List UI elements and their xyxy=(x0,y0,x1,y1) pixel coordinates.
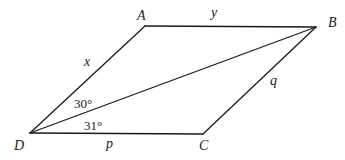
vertex-label-B: B xyxy=(328,15,337,30)
vertex-label-A: A xyxy=(136,8,146,23)
vertex-label-D: D xyxy=(13,138,24,153)
side-BC xyxy=(203,27,316,134)
vertex-label-C: C xyxy=(199,138,209,153)
parallelogram-diagram: ABCDxyqp30°31° xyxy=(0,0,345,160)
side-label-q: q xyxy=(270,73,277,88)
side-label-x: x xyxy=(83,54,91,69)
angle-label-1: 30° xyxy=(74,96,92,111)
side-label-y: y xyxy=(209,5,218,20)
angle-label-2: 31° xyxy=(84,118,102,133)
side-AB xyxy=(145,26,316,27)
side-DA xyxy=(30,26,145,133)
side-label-p: p xyxy=(105,136,113,151)
side-DC xyxy=(30,133,203,134)
